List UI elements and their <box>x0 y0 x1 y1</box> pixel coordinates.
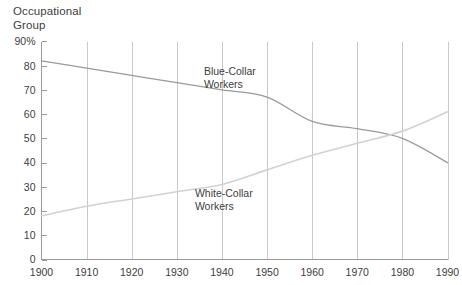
series-label-white-collar-line1: White-Collar <box>195 187 253 199</box>
line-chart-plot: 0102030405060708090% 1900191019201930194… <box>0 0 462 285</box>
y-tick-label: 60 <box>24 108 36 120</box>
gridlines <box>88 42 449 260</box>
y-tick-label: 40 <box>24 156 36 168</box>
series-label-blue-collar-line1: Blue-Collar <box>204 65 256 77</box>
x-tick-label: 1910 <box>75 266 99 278</box>
x-tick-label: 1990 <box>436 266 460 278</box>
y-tick-label: 0 <box>30 253 36 265</box>
axis-tickmarks <box>42 67 47 261</box>
x-tick-label: 1980 <box>391 266 415 278</box>
x-tick-label: 1920 <box>120 266 144 278</box>
y-tick-label: 20 <box>24 205 36 217</box>
y-tick-label: 30 <box>24 181 36 193</box>
series-annotations: Blue-CollarWorkersWhite-CollarWorkers <box>195 65 256 211</box>
y-tick-label: 50 <box>24 132 36 144</box>
x-tick-label: 1940 <box>210 266 234 278</box>
x-tick-label: 1930 <box>165 266 189 278</box>
x-tick-label: 1950 <box>255 266 279 278</box>
x-tick-label: 1970 <box>346 266 370 278</box>
y-tick-label: 10 <box>24 229 36 241</box>
series-label-white-collar-line2: Workers <box>195 200 234 212</box>
series-label-blue-collar-line2: Workers <box>204 78 243 90</box>
series-line-white-collar-workers <box>42 112 448 216</box>
y-tick-label: 90% <box>14 35 35 47</box>
x-tick-label: 1960 <box>300 266 324 278</box>
x-tick-label: 1900 <box>30 266 54 278</box>
x-axis-tick-labels: 1900191019201930194019501960197019801990 <box>30 266 460 278</box>
chart-container: Occupational Group 0102030405060708090% … <box>0 0 462 285</box>
y-tick-label: 70 <box>24 84 36 96</box>
y-tick-label: 80 <box>24 60 36 72</box>
y-axis-tick-labels: 0102030405060708090% <box>14 35 35 265</box>
